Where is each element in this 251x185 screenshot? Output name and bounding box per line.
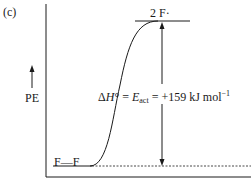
enthalpy-annotation: ΔH° = Eact = +159 kJ mol−1 — [98, 90, 230, 105]
unit-exponent: −1 — [222, 89, 231, 98]
arrow-down-icon — [160, 159, 165, 166]
reactant-label: F—F — [54, 156, 79, 168]
product-label: 2 F· — [150, 7, 170, 19]
degree-equals: ° = — [114, 90, 132, 104]
value-text: = +159 kJ mol — [149, 90, 222, 104]
y-axis-label: PE — [25, 92, 39, 104]
arrow-up-icon — [160, 22, 165, 29]
delta-symbol: Δ — [98, 90, 106, 104]
pe-arrow-icon — [30, 65, 35, 72]
activation-subscript: act — [139, 96, 148, 105]
panel-label: (c) — [3, 6, 16, 18]
